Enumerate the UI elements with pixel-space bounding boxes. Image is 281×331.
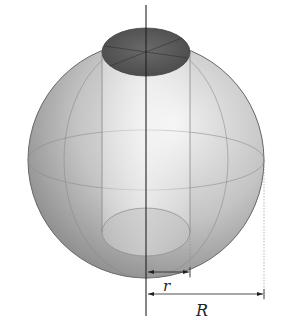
- R-label: R: [195, 301, 208, 320]
- r-label: r: [163, 277, 171, 295]
- sphere-with-cylindrical-hole-diagram: r R: [0, 0, 281, 331]
- R-dimension: R: [148, 289, 264, 320]
